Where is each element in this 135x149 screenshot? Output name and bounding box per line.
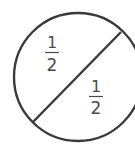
fraction-upper-numerator: 1 [47,33,57,52]
half-circle-diagram: 1 2 1 2 [0,0,135,149]
fraction-lower: 1 2 [89,77,103,118]
fraction-lower-numerator: 1 [91,77,101,96]
circle-outline [14,13,135,141]
fraction-lower-denominator: 2 [91,98,102,118]
fraction-upper-denominator: 2 [47,55,58,75]
fraction-upper: 1 2 [45,33,59,75]
